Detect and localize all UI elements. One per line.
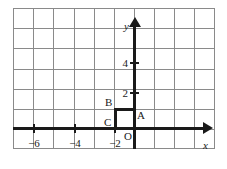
segment-b-to-a <box>114 108 136 111</box>
point-label-a: A <box>137 110 145 121</box>
y-axis-arrow-icon <box>129 17 141 27</box>
y-axis-tick <box>130 62 139 64</box>
grid-line-vertical <box>214 8 215 149</box>
grid-line-horizontal <box>13 28 215 29</box>
origin-label: O <box>124 131 132 142</box>
x-axis-arrow-icon <box>203 122 213 134</box>
coordinate-plane-figure: −6 −4 −2 2 4 x y O A B C <box>0 0 227 169</box>
x-axis-tick <box>33 124 35 133</box>
x-axis-label: x <box>203 140 208 151</box>
y-axis-tick <box>130 92 139 94</box>
y-tick-label: 4 <box>114 58 128 69</box>
x-tick-label: −4 <box>69 138 81 149</box>
y-axis-label: y <box>124 21 129 32</box>
x-axis-tick <box>74 124 76 133</box>
y-tick-label: 2 <box>114 88 128 99</box>
grid-line-horizontal <box>13 69 215 70</box>
point-label-b: B <box>105 97 112 108</box>
segment-b-to-c <box>114 108 117 129</box>
point-label-c: C <box>104 117 111 128</box>
x-tick-label: −2 <box>109 138 121 149</box>
grid-line-horizontal <box>13 48 215 49</box>
y-axis <box>133 26 136 149</box>
grid-line-horizontal <box>13 8 215 9</box>
x-tick-label: −6 <box>28 138 40 149</box>
